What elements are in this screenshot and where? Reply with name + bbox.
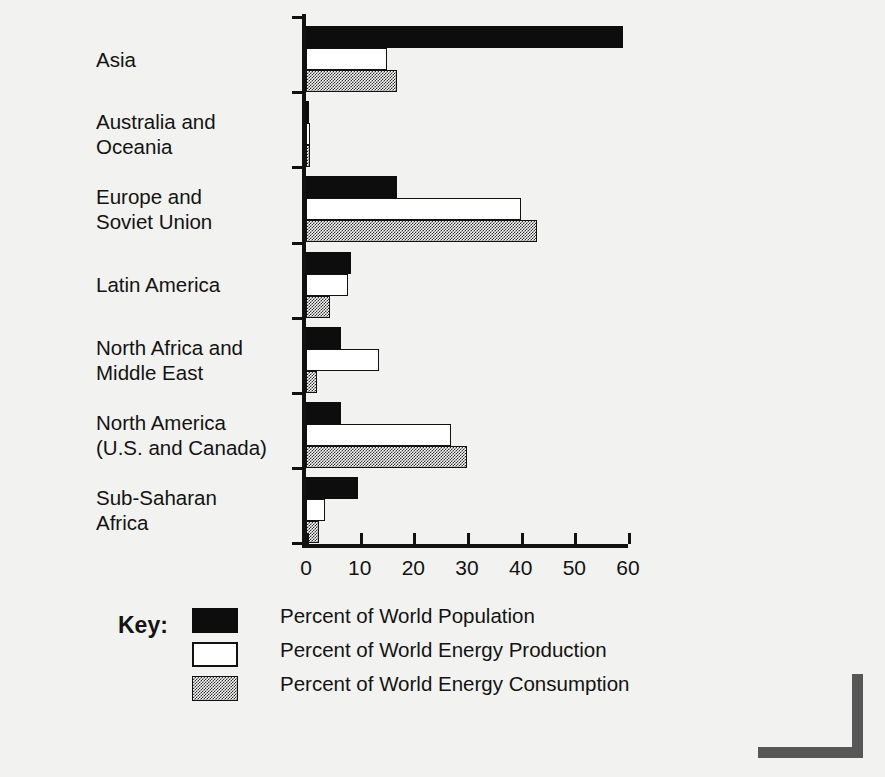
x-axis-tick-label: 60 (608, 556, 648, 580)
category-label: Europe andSoviet Union (96, 184, 294, 234)
x-axis-tick (467, 533, 470, 544)
bar-prod (306, 499, 325, 521)
category-label: Sub-SaharanAfrica (96, 485, 294, 535)
x-axis-tick (360, 533, 363, 544)
bar-cons (306, 70, 397, 92)
bar-prod (306, 48, 387, 70)
x-axis-tick-label: 40 (501, 556, 541, 580)
bar-cons (306, 145, 310, 167)
legend-title: Key: (118, 612, 168, 639)
x-axis-tick-label: 10 (340, 556, 380, 580)
bar-pop (306, 101, 309, 123)
bar-prod (306, 198, 521, 220)
bar-pop (306, 26, 623, 48)
x-axis-tick-label-list: 0102030405060 (306, 548, 646, 578)
category-label: North Africa andMiddle East (96, 335, 294, 385)
legend-swatch-prod (192, 642, 238, 667)
x-axis-tick (413, 533, 416, 544)
category-label-line: North America (96, 410, 294, 435)
plot-area (306, 14, 628, 544)
category-label-line: Asia (96, 47, 294, 72)
x-axis-tick-label: 30 (447, 556, 487, 580)
x-axis-tick (521, 533, 524, 544)
x-axis-tick-label: 0 (286, 556, 326, 580)
x-axis-tick (628, 533, 631, 544)
corner-bracket-horizontal (758, 747, 863, 758)
y-axis-tick (292, 392, 302, 395)
bar-cons (306, 296, 330, 318)
bar-cons (306, 446, 467, 468)
category-label: Australia andOceania (96, 109, 294, 159)
bar-cons (306, 220, 537, 242)
category-label-line: Soviet Union (96, 209, 294, 234)
category-label-list: AsiaAustralia andOceaniaEurope andSoviet… (96, 14, 294, 544)
energy-region-bar-chart: Region AsiaAustralia andOceaniaEurope an… (0, 0, 885, 777)
y-axis-tick (292, 91, 302, 94)
category-label-line: North Africa and (96, 335, 294, 360)
bar-pop (306, 477, 358, 499)
x-axis-tick-label: 50 (554, 556, 594, 580)
category-label-line: Latin America (96, 272, 294, 297)
y-axis-tick (292, 467, 302, 470)
bar-cons (306, 371, 317, 393)
category-label-line: Middle East (96, 360, 294, 385)
y-axis-tick (292, 317, 302, 320)
corner-bracket-mark (780, 650, 885, 777)
y-axis-tick (292, 16, 302, 19)
category-label-line: Oceania (96, 134, 294, 159)
bar-prod (306, 274, 348, 296)
category-label-line: Europe and (96, 184, 294, 209)
category-label-line: Australia and (96, 109, 294, 134)
category-label-line: Africa (96, 510, 294, 535)
bar-pop (306, 402, 341, 424)
legend-swatch-cons (192, 676, 238, 701)
x-axis-tick (574, 533, 577, 544)
category-label: Latin America (96, 272, 294, 297)
bar-pop (306, 176, 397, 198)
y-axis-tick (292, 242, 302, 245)
bar-prod (306, 123, 310, 145)
category-label-line: Sub-Saharan (96, 485, 294, 510)
y-axis-tick (292, 542, 302, 545)
y-axis-tick (292, 166, 302, 169)
x-axis-tick (306, 533, 309, 544)
corner-bracket-vertical (852, 674, 863, 758)
bar-prod (306, 349, 379, 371)
chart-legend: Key: Percent of World PopulationPercent … (118, 604, 678, 724)
bar-pop (306, 252, 351, 274)
category-label: Asia (96, 47, 294, 72)
bar-pop (306, 327, 341, 349)
legend-swatch-pop (192, 608, 238, 633)
category-label: North America(U.S. and Canada) (96, 410, 294, 460)
legend-item-label: Percent of World Energy Production (280, 638, 607, 662)
legend-item-label: Percent of World Energy Consumption (280, 672, 629, 696)
category-label-line: (U.S. and Canada) (96, 435, 294, 460)
x-axis-tick-label: 20 (393, 556, 433, 580)
legend-item-label: Percent of World Population (280, 604, 535, 628)
bar-prod (306, 424, 451, 446)
